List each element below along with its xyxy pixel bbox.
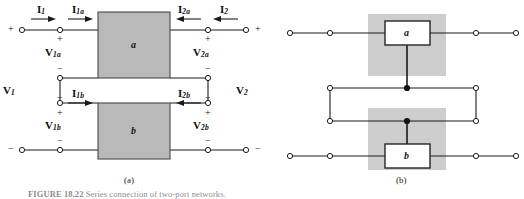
figure-caption-text: Series connection of two-port networks. bbox=[86, 189, 226, 199]
panel-b-terminal-bottom-right-inner bbox=[473, 153, 478, 158]
terminal-bottom-left-inner bbox=[57, 147, 62, 152]
current-label-i2: I2 bbox=[220, 4, 228, 16]
subcaption-b: (b) bbox=[396, 176, 407, 185]
panel-b-block-b-letter: b bbox=[404, 151, 409, 161]
polarity-minus-bottom-left: − bbox=[8, 144, 14, 154]
arrow-i2 bbox=[213, 16, 238, 22]
voltage-v1b-base: V bbox=[45, 119, 53, 131]
current-label-i1b: I1b bbox=[72, 88, 84, 100]
current-label-i2b: I2b bbox=[178, 88, 190, 100]
voltage-label-v2a: V2a bbox=[193, 47, 209, 59]
current-i2a-sub: 2a bbox=[182, 7, 190, 16]
polarity-minus-v1b: − bbox=[57, 136, 63, 146]
terminal-top-right-outer bbox=[243, 27, 248, 32]
panel-b-terminal-mid2-left bbox=[327, 118, 332, 123]
panel-a-graphics bbox=[19, 12, 248, 159]
arrow-i1 bbox=[31, 16, 56, 22]
polarity-minus-v2a: − bbox=[205, 64, 211, 74]
polarity-minus-v2b: − bbox=[205, 136, 211, 146]
polarity-minus-v1a: − bbox=[57, 64, 63, 74]
terminal-top-right-inner bbox=[205, 27, 210, 32]
junction-dot-bottom bbox=[404, 118, 410, 124]
current-i2b-sub: 2b bbox=[182, 91, 190, 100]
polarity-plus-v2a: + bbox=[205, 34, 211, 44]
voltage-label-v1b: V1b bbox=[45, 120, 61, 132]
current-label-i1a: I1a bbox=[72, 4, 84, 16]
voltage-v2-sub: 2 bbox=[244, 88, 248, 97]
terminal-bottom-left-outer bbox=[19, 147, 24, 152]
arrow-i2a bbox=[176, 16, 201, 22]
panel-b-terminal-mid2-right bbox=[473, 118, 478, 123]
panel-b-graphics bbox=[287, 14, 518, 170]
voltage-label-v2b: V2b bbox=[193, 120, 209, 132]
polarity-plus-top-left: + bbox=[8, 24, 14, 34]
polarity-plus-top-right: + bbox=[255, 24, 261, 34]
figure-container: + + − − + − + − + − + − − − I1 I1a I2a I… bbox=[0, 0, 524, 199]
current-label-i2a: I2a bbox=[178, 4, 190, 16]
polarity-plus-v1b: + bbox=[57, 108, 63, 118]
voltage-v2b-sub: 2b bbox=[201, 123, 209, 132]
current-label-i1: I1 bbox=[37, 4, 45, 16]
voltage-label-v1a: V1a bbox=[45, 47, 61, 59]
current-i1b-sub: 1b bbox=[76, 91, 84, 100]
polarity-plus-v1a: + bbox=[57, 34, 63, 44]
subcaption-a: (a) bbox=[124, 176, 134, 185]
voltage-v2b-base: V bbox=[193, 119, 201, 131]
current-i1a-sub: 1a bbox=[76, 7, 84, 16]
arrow-i2b bbox=[176, 100, 201, 106]
current-i1-sub: 1 bbox=[41, 7, 45, 16]
panel-b-block-a-letter: a bbox=[404, 28, 409, 38]
panel-b-terminal-mid-left bbox=[327, 85, 332, 90]
figure-caption: FIGURE 18.22 Series connection of two-po… bbox=[28, 189, 508, 199]
arrow-i1b bbox=[68, 100, 93, 106]
terminal-bottom-right-outer bbox=[243, 147, 248, 152]
terminal-top-left-inner bbox=[57, 27, 62, 32]
panel-b-terminal-mid-right bbox=[473, 85, 478, 90]
arrow-i1a bbox=[68, 16, 93, 22]
figure-caption-number: FIGURE 18.22 bbox=[28, 189, 84, 199]
voltage-v2a-sub: 2a bbox=[201, 50, 209, 59]
panel-b-terminal-top-right-inner bbox=[473, 30, 478, 35]
panel-a-block-b-letter: b bbox=[131, 126, 136, 136]
voltage-v1a-sub: 1a bbox=[53, 50, 61, 59]
panel-b-terminal-bottom-left-inner bbox=[327, 153, 332, 158]
voltage-v1a-base: V bbox=[45, 46, 53, 58]
polarity-minus-bottom-right: − bbox=[255, 144, 261, 154]
panel-a-block-a-letter: a bbox=[131, 40, 136, 50]
polarity-plus-v2b: + bbox=[205, 108, 211, 118]
voltage-label-v1: V1 bbox=[3, 85, 15, 97]
junction-dot-top bbox=[404, 85, 410, 91]
voltage-v2a-base: V bbox=[193, 46, 201, 58]
terminal-a-bottom-right bbox=[205, 75, 210, 80]
panel-b-terminal-bottom-left-outer bbox=[287, 153, 292, 158]
panel-b-terminal-top-left-inner bbox=[327, 30, 332, 35]
voltage-label-v2: V2 bbox=[236, 85, 248, 97]
panel-b-terminal-top-left-outer bbox=[287, 30, 292, 35]
terminal-top-left-outer bbox=[19, 27, 24, 32]
panel-b-terminal-top-right-outer bbox=[513, 30, 518, 35]
panel-b-terminal-bottom-right-outer bbox=[513, 153, 518, 158]
voltage-v1-base: V bbox=[3, 84, 11, 96]
voltage-v2-base: V bbox=[236, 84, 244, 96]
polarity-minus-v1a-lower: − bbox=[57, 93, 63, 103]
current-i2-sub: 2 bbox=[224, 7, 228, 16]
terminal-a-bottom-left bbox=[57, 75, 62, 80]
polarity-minus-v2a-lower: − bbox=[205, 93, 211, 103]
terminal-bottom-right-inner bbox=[205, 147, 210, 152]
voltage-v1-sub: 1 bbox=[11, 88, 15, 97]
voltage-v1b-sub: 1b bbox=[53, 123, 61, 132]
